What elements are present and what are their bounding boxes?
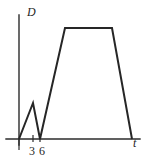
- chart-figure: D t 3 6: [0, 0, 153, 164]
- x-axis-label: t: [133, 136, 137, 150]
- demand-curve: [19, 28, 132, 139]
- x-tick-label-6: 6: [39, 144, 45, 158]
- x-tick-label-3: 3: [29, 144, 35, 158]
- y-axis-label: D: [26, 5, 36, 19]
- line-chart-plot: D t 3 6: [0, 0, 153, 164]
